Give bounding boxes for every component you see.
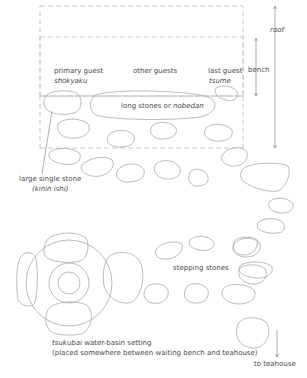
stone (81, 157, 113, 176)
stone (222, 148, 248, 166)
bench-label: bench (248, 66, 269, 74)
last-guest-label: last guest (208, 67, 243, 75)
tsukubai-bottom-stone (46, 302, 92, 335)
stone (151, 122, 177, 139)
stepping-stone (155, 242, 182, 259)
long-stones-label: long stones or nobedan (121, 102, 204, 110)
stone (58, 119, 90, 138)
roji-garden-diagram: roof bench primary guest shokyaku other … (0, 0, 307, 378)
stone (154, 161, 180, 180)
stone (257, 219, 284, 234)
other-guests-label: other guests (133, 67, 177, 75)
tsukubai-front-stone (44, 233, 88, 262)
stepping-stone (222, 284, 255, 304)
stone (239, 262, 272, 278)
tsukubai-note: (placed somewhere between waiting bench … (52, 349, 258, 357)
stone (107, 130, 134, 147)
stepping-stone (236, 318, 268, 348)
tsukubai-basin-hole (58, 272, 80, 294)
primary-guest-label: primary guest (54, 67, 103, 75)
to-teahouse-label: to teahouse (254, 360, 296, 368)
large-stone-label: large single stone (19, 175, 81, 183)
stepping-stone (144, 284, 168, 304)
tsukubai-right-stone (103, 252, 143, 303)
roof-label: roof (270, 26, 285, 34)
primary-guest-jp-label: shokyaku (54, 77, 88, 85)
stone (116, 164, 144, 182)
tsukubai-basin-ring (49, 263, 89, 303)
large-stone-pointer (42, 111, 52, 174)
last-guest-stone (215, 86, 237, 101)
tsukubai-left-stone (17, 253, 38, 306)
stepping-stone (233, 237, 257, 255)
stepping-stone (189, 236, 214, 250)
primary-guest-stone (44, 91, 81, 115)
stone (49, 148, 80, 164)
stepping-stones-label: stepping stones (173, 264, 229, 272)
stone (241, 163, 290, 191)
tsukubai-label: tsukubai water-basin setting (52, 339, 152, 347)
large-stone-jp-label: (kinin ishi) (32, 185, 69, 193)
stepping-stone (184, 284, 208, 303)
last-guest-jp-label: tsume (209, 77, 231, 85)
stone (204, 124, 232, 141)
stone (269, 198, 293, 213)
stone (189, 169, 208, 186)
tsukubai-outer-circle (26, 240, 112, 326)
